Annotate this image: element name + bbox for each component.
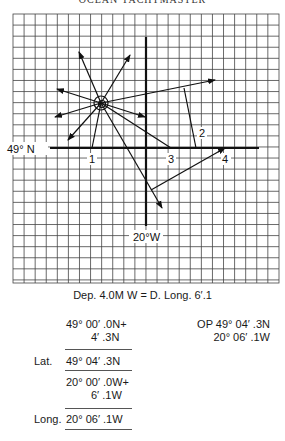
op-longitude: 20° 06′ .1W (190, 331, 270, 344)
long-result: 20° 06′ .1W (66, 413, 123, 426)
long-result-rule (65, 429, 132, 430)
lat-result: 49° 04′ .3N (66, 355, 120, 368)
point-4-label: 4 (222, 153, 228, 165)
lat-label: Lat. (34, 355, 52, 368)
long-row-1: 20° 00′ .0W+ (66, 376, 129, 389)
op-latitude: OP 49° 04′ .3N (190, 318, 270, 331)
observed-position: OP 49° 04′ .3N 20° 06′ .1W (190, 318, 270, 344)
point-1-label: 1 (89, 153, 95, 165)
long-label: Long. (34, 413, 62, 426)
lat-result-rule (65, 370, 132, 371)
lat-row-2: 4′ .3N (91, 331, 119, 344)
latitude-axis-label: 49° N (7, 143, 35, 155)
point-3-label: 3 (168, 153, 174, 165)
lat-sum-rule (65, 349, 132, 350)
longitude-axis-label: 20°W (133, 231, 161, 243)
long-row-2: 6′ .1W (91, 389, 122, 402)
point-2-label: 2 (199, 127, 205, 139)
departure-caption: Dep. 4.0M W = D. Long. 6′.1 (0, 289, 285, 301)
long-sum-rule (65, 408, 132, 409)
plotting-diagram: 49° N 20°W 1 2 3 4 (0, 0, 285, 290)
lat-row-1: 49° 00′ .0N+ (66, 318, 127, 331)
